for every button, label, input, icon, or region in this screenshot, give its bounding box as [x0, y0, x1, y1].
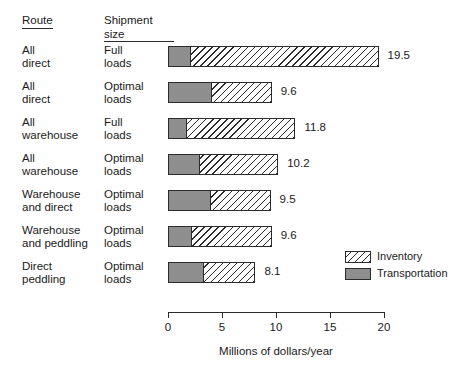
bar-segment-inventory — [192, 227, 271, 246]
row-shipment-size-label: Optimal loads — [104, 188, 166, 215]
x-axis-title: Millions of dollars/year — [168, 345, 384, 358]
chart-row: Warehouse and directOptimal loads9.5 — [0, 188, 451, 224]
bar-segment-transportation — [169, 227, 192, 246]
bar-segment-inventory — [200, 155, 277, 174]
bar-segment-transportation — [169, 119, 187, 138]
bar-segment-inventory — [212, 83, 270, 102]
bar-segment-transportation — [169, 47, 191, 66]
bar-segment-transportation — [169, 191, 211, 210]
column-header-route-label: Route — [22, 14, 53, 29]
legend-swatch-inventory — [345, 251, 371, 263]
row-shipment-size-label: Full loads — [104, 116, 166, 143]
stacked-bar — [168, 190, 271, 211]
bar-segment-transportation — [169, 83, 212, 102]
x-axis-tick — [330, 312, 331, 318]
row-shipment-size-label: Optimal loads — [104, 152, 166, 179]
x-axis-tick-label: 20 — [378, 321, 391, 334]
x-axis-tick-label: 0 — [165, 321, 171, 334]
legend-item: Transportation — [345, 266, 448, 281]
bar-value-label: 19.5 — [388, 49, 410, 62]
chart-legend: InventoryTransportation — [345, 249, 448, 283]
chart-row: All warehouseOptimal loads10.2 — [0, 152, 451, 188]
legend-item: Inventory — [345, 249, 448, 264]
bar-segment-inventory — [191, 47, 378, 66]
stacked-bar — [168, 82, 272, 103]
bar-segment-inventory — [211, 191, 269, 210]
row-route-label: All direct — [22, 44, 104, 71]
x-axis-tick — [168, 312, 169, 318]
row-route-label: Direct peddling — [22, 260, 104, 287]
bar-value-label: 10.2 — [287, 157, 309, 170]
row-route-label: All warehouse — [22, 116, 104, 143]
x-axis-tick — [222, 312, 223, 318]
legend-label: Transportation — [377, 267, 448, 280]
legend-label: Inventory — [377, 250, 422, 263]
bar-value-label: 9.6 — [281, 229, 297, 242]
chart-row: All directFull loads19.5 — [0, 44, 451, 80]
row-shipment-size-label: Optimal loads — [104, 260, 166, 287]
row-route-label: All direct — [22, 80, 104, 107]
bar-value-label: 8.1 — [264, 265, 280, 278]
legend-swatch-transportation — [345, 268, 371, 280]
column-header-shipment-size: Shipment size — [104, 14, 174, 42]
bar-segment-transportation — [169, 155, 200, 174]
column-header-shipment-size-label: Shipment size — [104, 14, 174, 42]
stacked-bar-chart: Route Shipment size All directFull loads… — [0, 0, 451, 369]
row-shipment-size-label: Full loads — [104, 44, 166, 71]
chart-row: All directOptimal loads9.6 — [0, 80, 451, 116]
bar-segment-inventory — [204, 263, 255, 282]
stacked-bar — [168, 154, 278, 175]
chart-row: All warehouseFull loads11.8 — [0, 116, 451, 152]
x-axis-tick-label: 5 — [219, 321, 225, 334]
row-route-label: Warehouse and direct — [22, 188, 104, 215]
x-axis-tick-label: 15 — [324, 321, 337, 334]
x-axis-tick — [276, 312, 277, 318]
row-shipment-size-label: Optimal loads — [104, 80, 166, 107]
x-axis-tick-label: 10 — [270, 321, 283, 334]
bar-segment-transportation — [169, 263, 204, 282]
stacked-bar — [168, 226, 272, 247]
bar-value-label: 9.5 — [280, 193, 296, 206]
stacked-bar — [168, 46, 379, 67]
row-route-label: Warehouse and peddling — [22, 224, 104, 251]
bar-value-label: 11.8 — [304, 121, 326, 134]
bar-segment-inventory — [187, 119, 294, 138]
bar-value-label: 9.6 — [281, 85, 297, 98]
row-shipment-size-label: Optimal loads — [104, 224, 166, 251]
column-header-route: Route — [22, 14, 53, 29]
row-route-label: All warehouse — [22, 152, 104, 179]
x-axis-tick — [384, 312, 385, 318]
stacked-bar — [168, 262, 255, 283]
stacked-bar — [168, 118, 295, 139]
